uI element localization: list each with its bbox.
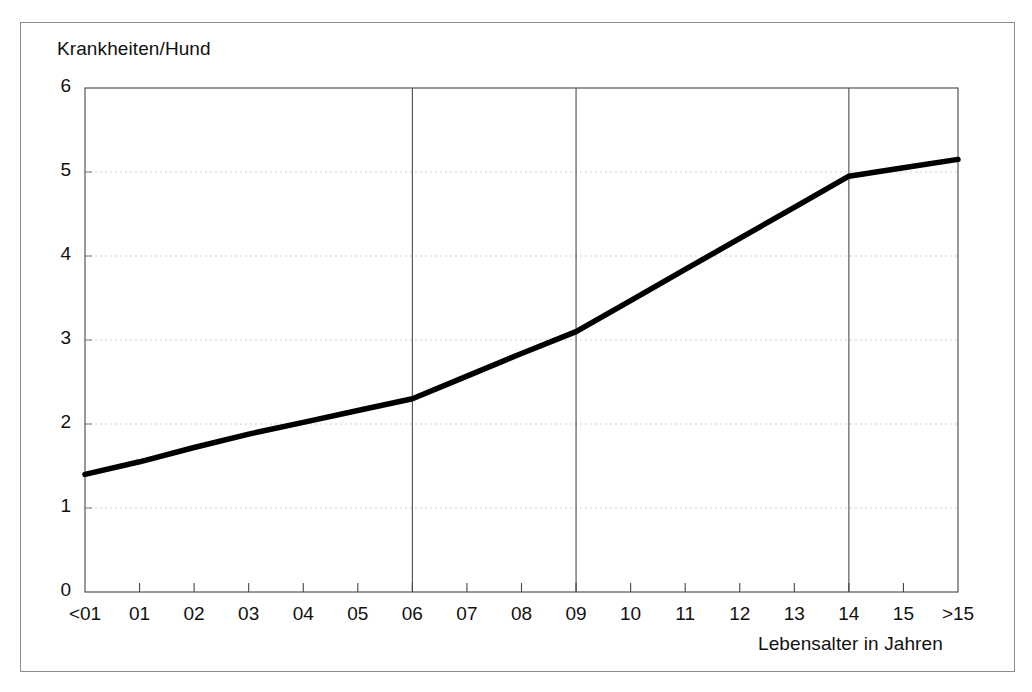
x-axis-title: Lebensalter in Jahren — [758, 633, 943, 655]
x-tick-label: 10 — [620, 603, 641, 625]
x-tick-label: 03 — [238, 603, 259, 625]
y-tick-label: 5 — [37, 159, 71, 181]
x-tick-label: >15 — [942, 603, 974, 625]
y-tick-label: 4 — [37, 243, 71, 265]
x-tick-label: 11 — [675, 603, 695, 625]
y-tick-label: 0 — [37, 579, 71, 601]
x-tick-label: 08 — [511, 603, 532, 625]
y-tick-label: 3 — [37, 327, 71, 349]
y-axis-title: Krankheiten/Hund — [57, 38, 211, 60]
x-tick-label: 07 — [456, 603, 477, 625]
line-chart — [0, 0, 1032, 692]
x-tick-label: 01 — [129, 603, 150, 625]
x-tick-label: 06 — [402, 603, 423, 625]
y-tick-label: 6 — [37, 75, 71, 97]
x-tick-label: 13 — [784, 603, 805, 625]
y-tick-label: 1 — [37, 495, 71, 517]
x-tick-label: <01 — [69, 603, 101, 625]
x-tick-label: 04 — [293, 603, 314, 625]
x-tick-label: 14 — [838, 603, 859, 625]
y-tick-label: 2 — [37, 411, 71, 433]
x-tick-label: 15 — [893, 603, 914, 625]
x-tick-label: 12 — [729, 603, 750, 625]
x-tick-label: 09 — [565, 603, 586, 625]
x-tick-label: 02 — [184, 603, 205, 625]
x-tick-label: 05 — [347, 603, 368, 625]
data-series-line — [85, 159, 958, 474]
